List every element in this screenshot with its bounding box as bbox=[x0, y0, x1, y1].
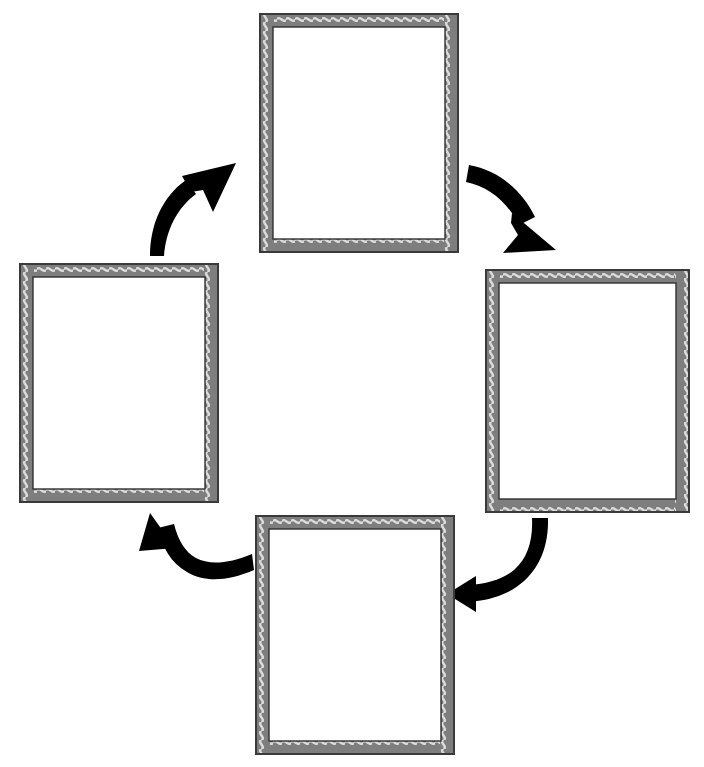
decorative-frame-icon bbox=[259, 13, 459, 253]
cycle-node-left[interactable] bbox=[19, 263, 219, 503]
arrow-left-to-top-icon bbox=[150, 163, 236, 256]
cycle-node-top[interactable] bbox=[259, 13, 459, 253]
decorative-frame-icon bbox=[255, 515, 455, 755]
arrow-bottom-to-left-icon bbox=[139, 513, 254, 579]
arrow-right-to-bottom-icon bbox=[447, 518, 548, 612]
arrow-top-to-right-icon bbox=[466, 165, 556, 253]
cycle-node-right[interactable] bbox=[485, 269, 690, 513]
diagram-page: 1 Copyright © Pearson Education, Inc., o… bbox=[0, 0, 704, 767]
decorative-frame-icon bbox=[19, 263, 219, 503]
decorative-frame-icon bbox=[485, 269, 690, 513]
cycle-node-bottom[interactable] bbox=[255, 515, 455, 755]
